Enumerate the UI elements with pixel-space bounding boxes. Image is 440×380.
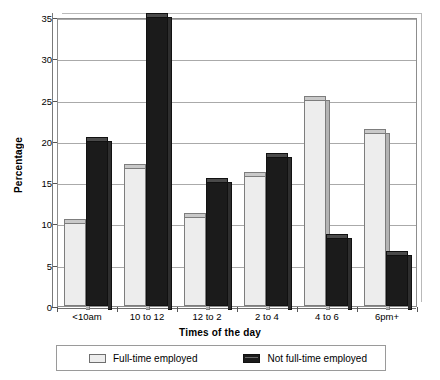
y-axis-tick-labels: 05101520253035 [22, 18, 52, 307]
bar [304, 96, 326, 306]
bar-front-face [206, 182, 228, 306]
x-axis-title: Times of the day [0, 327, 440, 338]
x-axis-tick-label: 12 to 2 [192, 311, 221, 322]
bar-front-face [266, 157, 288, 306]
x-axis-tick [57, 307, 58, 312]
x-axis-tick-label: 6pm+ [375, 311, 399, 322]
legend-label: Not full-time employed [267, 353, 366, 364]
y-axis-tick-label: 10 [28, 219, 52, 230]
bar-side-face [288, 157, 292, 310]
bar [86, 137, 108, 306]
y-axis-tick-label: 30 [28, 54, 52, 65]
bar [326, 234, 348, 306]
y-axis-tick-label: 5 [28, 260, 52, 271]
bar-front-face [86, 141, 108, 306]
bar-side-face [228, 182, 232, 310]
bar-top-face [124, 164, 146, 168]
bar-top-face [86, 137, 108, 141]
legend-swatch-light-icon [89, 354, 106, 363]
bar-top-face [64, 219, 86, 223]
bar-front-face [124, 168, 146, 306]
bar-front-face [364, 133, 386, 306]
bar-side-face [408, 255, 412, 310]
legend: Full-time employed Not full-time employe… [56, 345, 386, 371]
x-axis-tick-label: 2 to 4 [255, 311, 279, 322]
bar-front-face [146, 17, 168, 306]
x-axis-tick [177, 307, 178, 312]
bar [206, 178, 228, 306]
y-axis-tick-label: 25 [28, 95, 52, 106]
bar-front-face [244, 176, 266, 306]
x-axis-tick [297, 307, 298, 312]
x-axis-tick [357, 307, 358, 312]
x-axis-tick [117, 307, 118, 312]
bar [64, 219, 86, 306]
x-axis-tick-label: <10am [72, 311, 101, 322]
legend-item-full-time: Full-time employed [89, 353, 197, 364]
bar-top-face [386, 251, 408, 255]
x-axis-tick [417, 307, 418, 312]
bar-side-face [168, 17, 172, 310]
bar-top-face [326, 234, 348, 238]
bars-layer [58, 19, 416, 306]
bar-top-face [266, 153, 288, 157]
bar-front-face [64, 223, 86, 306]
x-axis-tick [237, 307, 238, 312]
legend-item-not-full-time: Not full-time employed [243, 353, 366, 364]
bar-top-face [244, 172, 266, 176]
bar-top-face [304, 96, 326, 100]
bar [244, 172, 266, 306]
bar-top-face [184, 213, 206, 217]
y-axis-tick-label: 20 [28, 136, 52, 147]
bar [266, 153, 288, 306]
x-axis-tick-label: 4 to 6 [315, 311, 339, 322]
legend-label: Full-time employed [113, 353, 197, 364]
y-axis-tick-label: 0 [28, 302, 52, 313]
bar-top-face [146, 13, 168, 17]
plot-area [57, 18, 417, 307]
bar-front-face [326, 238, 348, 306]
bar-front-face [386, 255, 408, 306]
bar-top-face [206, 178, 228, 182]
bar [184, 213, 206, 306]
bar-front-face [184, 217, 206, 306]
bar [124, 164, 146, 306]
bar [364, 129, 386, 306]
x-axis-tick-label: 10 to 12 [130, 311, 164, 322]
bar-side-face [348, 238, 352, 310]
y-axis-tick-label: 15 [28, 178, 52, 189]
bar-side-face [108, 141, 112, 310]
legend-swatch-dark-icon [243, 354, 260, 363]
bar-chart: Percentage 05101520253035 <10am10 to 121… [0, 0, 440, 380]
bar [386, 251, 408, 306]
bar-top-face [364, 129, 386, 133]
bar-front-face [304, 100, 326, 306]
y-axis-tick-label: 35 [28, 13, 52, 24]
bar [146, 13, 168, 306]
